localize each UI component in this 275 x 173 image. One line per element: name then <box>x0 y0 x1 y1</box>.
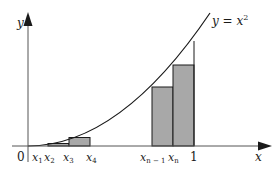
y-axis-label: y <box>16 16 24 30</box>
tick-label-xn-minus-1: xn − 1 <box>140 151 166 165</box>
tick-label-x4: x4 <box>86 151 97 165</box>
x-axis-label: x <box>255 150 262 164</box>
tick-label-x2: x2 <box>44 151 55 165</box>
y-axis-arrow-icon <box>24 12 33 26</box>
tick-label-x3: x3 <box>63 151 74 165</box>
x-one-label: 1 <box>190 150 198 164</box>
origin-label: 0 <box>17 150 25 164</box>
riemann-sum-diagram: y x 0 1 y = x2 x1 x2 x3 x4 xn − 1 xn <box>0 0 275 173</box>
curve-label: y = x2 <box>211 13 248 28</box>
tick-label-xn: xn <box>168 151 179 165</box>
rect-xn-1 <box>173 65 194 146</box>
rect-xn-1-xn <box>152 87 173 146</box>
tick-label-x1: x1 <box>32 151 43 165</box>
rectangles <box>48 65 194 146</box>
